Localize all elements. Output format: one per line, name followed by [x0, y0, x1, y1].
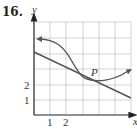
x-tick-1: 1: [47, 116, 53, 128]
x-axis-label: x: [132, 115, 137, 127]
grid: [34, 22, 131, 115]
y-tick-1: 1: [24, 94, 30, 106]
x-tick-2: 2: [63, 116, 69, 128]
graph: y x P 1 2 1 2: [0, 0, 137, 129]
y-axis-label: y: [31, 3, 37, 15]
point-p-label: P: [90, 66, 98, 78]
curve-arrow-left: [36, 36, 42, 42]
y-tick-2: 2: [24, 79, 30, 91]
axes: [32, 14, 137, 118]
tangent-line: [34, 52, 131, 98]
